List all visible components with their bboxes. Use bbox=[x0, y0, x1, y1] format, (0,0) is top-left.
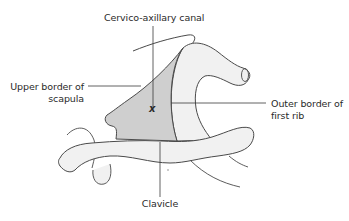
cervico-axillary-canal-area bbox=[105, 48, 183, 141]
rib-lower-sweep bbox=[190, 160, 240, 187]
label-outer-border-first-rib-line2: first rib bbox=[271, 110, 304, 121]
label-upper-border-scapula-line2: scapula bbox=[10, 93, 84, 104]
first-rib-shape bbox=[171, 43, 250, 141]
rib-lower-sweep-2 bbox=[229, 156, 248, 167]
speck bbox=[167, 169, 169, 171]
label-clavicle: Clavicle bbox=[135, 198, 185, 209]
anatomy-figure: x Cervico-axillary canal Upper border of… bbox=[0, 0, 349, 221]
scapula-lower-lobe bbox=[93, 164, 111, 184]
label-cervico-axillary-canal: Cervico-axillary canal bbox=[104, 12, 204, 23]
label-outer-border-first-rib-line1: Outer border of bbox=[271, 98, 343, 109]
canal-marker: x bbox=[149, 103, 155, 114]
label-upper-border-scapula-line1: Upper border of bbox=[10, 81, 84, 92]
